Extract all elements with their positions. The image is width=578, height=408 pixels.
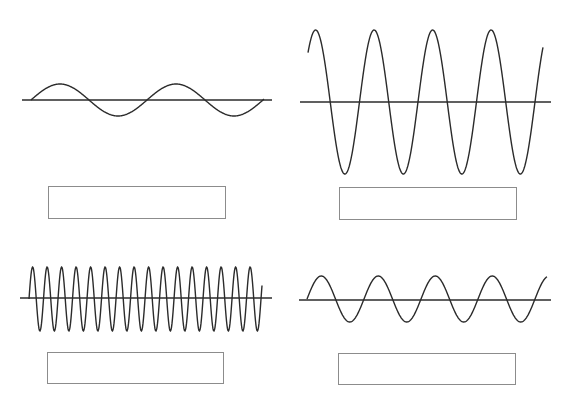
panel-wave-a	[22, 84, 272, 116]
answer-box-wave-d[interactable]	[338, 353, 516, 385]
answer-box-wave-c[interactable]	[47, 352, 224, 384]
panel-wave-d	[299, 276, 551, 322]
panel-wave-c	[20, 267, 272, 331]
sine-wave	[307, 276, 547, 322]
answer-box-wave-a[interactable]	[48, 186, 226, 219]
sine-wave	[29, 267, 262, 331]
panel-wave-b	[300, 30, 551, 174]
answer-box-wave-b[interactable]	[339, 187, 517, 220]
